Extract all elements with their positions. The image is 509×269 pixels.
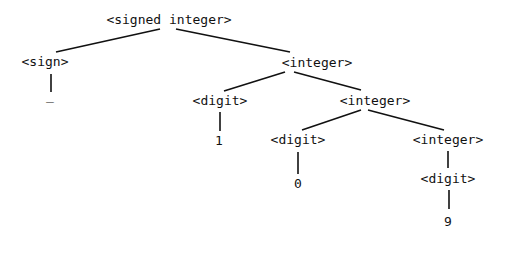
node-digit-1: <digit>: [193, 93, 248, 109]
node-terminal-1: 1: [215, 133, 223, 149]
node-minus-terminal: _: [46, 88, 54, 104]
node-terminal-9: 9: [444, 214, 452, 230]
tree-edge: [176, 29, 290, 52]
node-integer-1: <integer>: [282, 55, 352, 71]
node-sign: <sign>: [22, 54, 69, 70]
node-terminal-0: 0: [294, 176, 302, 192]
node-signed-integer: <signed integer>: [106, 12, 231, 28]
tree-edge: [368, 110, 444, 130]
tree-edge: [224, 72, 285, 91]
node-digit-2: <digit>: [271, 132, 326, 148]
tree-edge: [302, 110, 361, 130]
node-integer-3: <integer>: [413, 132, 483, 148]
tree-edge: [56, 29, 160, 52]
tree-edge: [294, 72, 361, 90]
node-digit-3: <digit>: [421, 171, 476, 187]
node-integer-2: <integer>: [340, 93, 410, 109]
